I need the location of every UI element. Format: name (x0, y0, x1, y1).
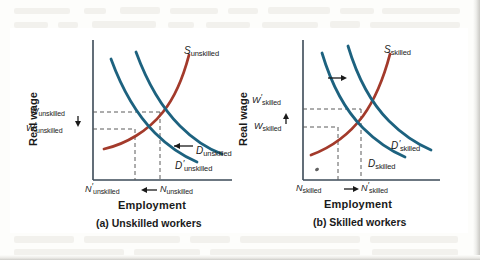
demand-curve-label-shifted-unskilled: D′unskilled (175, 161, 212, 171)
wage-label-unskilled: Wunskilled (30, 107, 65, 116)
ghost-text-line (84, 8, 106, 14)
demand-curve-unskilled (136, 52, 222, 154)
y-axis-title-unskilled: Real wage (28, 92, 39, 146)
wage-increase-arrow-up-icon (283, 113, 289, 124)
panel-caption-text-skilled: (b) Skilled workers (313, 216, 406, 228)
panel-caption-text-unskilled: (a) Unskilled workers (96, 217, 202, 229)
employment-label-unskilled: Nunskilled (160, 185, 193, 194)
demand-curve-label-shifted-skilled: D′skilled (391, 141, 420, 151)
ghost-text-line (14, 8, 70, 14)
demand-shift-arrow-left-icon (174, 143, 193, 149)
x-axis-title-unskilled: Employment (118, 200, 186, 211)
ghost-text-line (228, 8, 258, 14)
panel-caption-unskilled: (a) Unskilled workers (96, 218, 202, 229)
demand-curve-shifted-skilled (348, 46, 431, 150)
y-axis-title-text-unskilled: Real wage (27, 92, 39, 146)
x-axis-title-text-unskilled: Employment (118, 199, 186, 211)
supply-curve-label-skilled: Sskilled (384, 45, 411, 55)
employment-increase-arrow-right-icon (344, 186, 359, 192)
wage-label-shifted-skilled: W′skilled (252, 96, 281, 105)
ghost-text-line (170, 8, 218, 14)
ghost-text-line (330, 21, 360, 28)
employment-label-shifted-unskilled: N′unskilled (85, 185, 119, 194)
employment-label-shifted-skilled: N′skilled (361, 184, 388, 193)
chart-panel-skilled: Real wage W′skilled Wskilled Nskilled N′… (218, 28, 448, 233)
y-axis-title-text-skilled: Real wage (237, 92, 249, 146)
employment-label-skilled: Nskilled (296, 184, 321, 193)
page-edge-bottom (0, 255, 480, 260)
supply-curve-label-unskilled: Sunskilled (184, 46, 219, 56)
ghost-text-line (240, 236, 360, 243)
ghost-text-line (92, 21, 156, 28)
wage-label-shifted-unskilled: W′unskilled (26, 124, 62, 133)
ghost-text-line (370, 236, 458, 243)
ghost-text-line (340, 8, 374, 14)
wage-decrease-arrow-down-icon (75, 116, 81, 127)
x-axis-title-skilled: Employment (324, 199, 392, 210)
panel-caption-skilled: (b) Skilled workers (313, 217, 406, 228)
ghost-text-line (14, 236, 74, 243)
y-axis-title-skilled: Real wage (238, 92, 249, 146)
ghost-text-line (190, 236, 230, 243)
supply-curve-unskilled (104, 55, 189, 149)
ghost-text-line (382, 8, 460, 14)
wage-label-skilled: Wskilled (254, 122, 281, 131)
employment-decrease-arrow-left-icon (141, 187, 157, 193)
demand-curve-label-skilled: Dskilled (368, 159, 395, 169)
chart-panel-unskilled: Real wage Wunskilled W′unskilled N′unski… (8, 28, 238, 233)
x-axis-title-text-skilled: Employment (324, 198, 392, 210)
ghost-text-line (120, 7, 160, 14)
page-edge-right (473, 0, 480, 260)
scanned-page: Real wage Wunskilled W′unskilled N′unski… (0, 0, 480, 260)
ghost-text-line (84, 236, 180, 243)
ghost-text-line (268, 7, 330, 14)
